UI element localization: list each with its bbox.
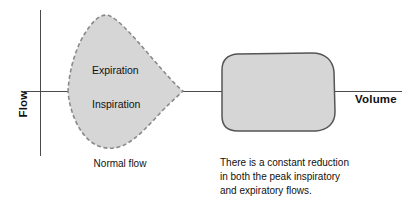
annotation-line-2: in both the peak inspiratory [220,171,340,182]
x-axis-label: Volume [355,93,397,105]
flow-volume-diagram: Flow Volume Expiration Inspiration Norma… [0,0,415,208]
annotation-line-3: and expiratory flows. [220,185,312,196]
normal-flow-caption: Normal flow [94,158,148,169]
normal-flow-loop-path [68,15,183,148]
expiration-label: Expiration [92,64,139,76]
y-axis-label: Flow [17,91,29,118]
normal-flow-loop [68,15,183,148]
reduced-flow-loop [222,53,335,131]
inspiration-label: Inspiration [92,98,141,110]
reduced-flow-loop-path [222,53,335,131]
annotation-line-1: There is a constant reduction [220,157,349,168]
reduction-annotation: There is a constant reduction in both th… [220,157,349,196]
